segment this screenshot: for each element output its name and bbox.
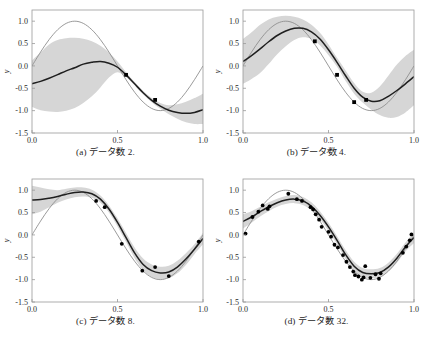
svg-text:-1.0: -1.0 [226, 106, 239, 115]
panel-b: 1.00.50.0-0.5-1.0-1.50.00.51.0xy (b) データ… [211, 0, 422, 169]
svg-text:0.0: 0.0 [229, 62, 239, 71]
svg-text:1.0: 1.0 [18, 186, 28, 195]
caption-c: (c) データ数 8. [0, 313, 211, 327]
svg-text:y: y [2, 69, 11, 74]
svg-text:0.0: 0.0 [18, 62, 28, 71]
svg-text:-0.5: -0.5 [226, 84, 239, 93]
svg-text:-0.5: -0.5 [15, 253, 28, 262]
svg-text:-1.0: -1.0 [15, 275, 28, 284]
panel-d: 1.00.50.0-0.5-1.0-1.50.00.51.0xy (d) データ… [211, 169, 422, 338]
svg-text:-1.0: -1.0 [15, 106, 28, 115]
svg-text:0.5: 0.5 [18, 39, 28, 48]
svg-text:y: y [2, 238, 11, 243]
panel-c: 1.00.50.0-0.5-1.0-1.50.00.51.0xy (c) データ… [0, 169, 211, 338]
caption-d: (d) データ数 32. [211, 313, 422, 327]
svg-text:-0.5: -0.5 [226, 253, 239, 262]
svg-text:0.5: 0.5 [229, 39, 239, 48]
svg-text:1.0: 1.0 [18, 17, 28, 26]
svg-text:y: y [213, 238, 222, 243]
svg-text:0.0: 0.0 [18, 231, 28, 240]
panel-a: 1.00.50.0-0.5-1.0-1.50.00.51.0xy (a) データ… [0, 0, 211, 169]
caption-b: (b) データ数 4. [211, 144, 422, 158]
svg-text:0.5: 0.5 [229, 208, 239, 217]
svg-text:0.5: 0.5 [18, 208, 28, 217]
svg-text:-1.0: -1.0 [226, 275, 239, 284]
svg-text:0.0: 0.0 [229, 231, 239, 240]
svg-text:1.0: 1.0 [229, 186, 239, 195]
svg-text:y: y [213, 69, 222, 74]
svg-text:-0.5: -0.5 [15, 84, 28, 93]
caption-a: (a) データ数 2. [0, 144, 211, 158]
svg-text:1.0: 1.0 [229, 17, 239, 26]
figure-root: 1.00.50.0-0.5-1.0-1.50.00.51.0xy (a) データ… [0, 0, 423, 339]
